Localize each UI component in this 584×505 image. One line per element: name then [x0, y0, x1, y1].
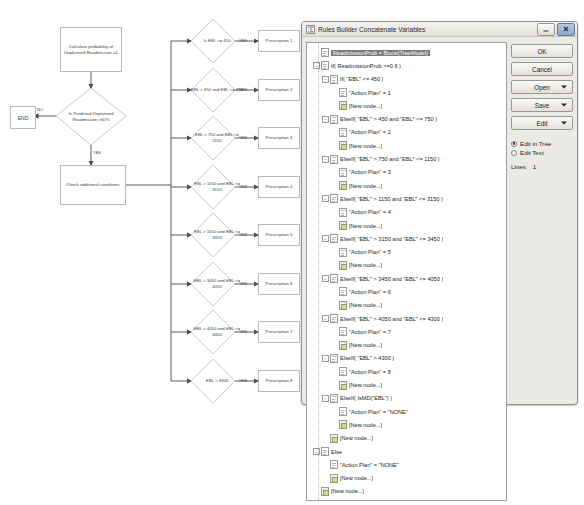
ok-button[interactable]: OK [511, 44, 573, 58]
new-node-icon [339, 261, 347, 270]
tree-node[interactable]: [New node...] [309, 259, 504, 272]
dialog-buttons-pane: OKCancelOpenSaveEdit Edit in TreeEdit Te… [511, 42, 573, 501]
prescription-box-5: Prescription 5 [258, 224, 300, 246]
edit-button[interactable]: Edit [511, 116, 573, 130]
tree-node[interactable]: ReadmissionProb = Boost(TreeModel) [309, 46, 504, 59]
tree-node-label: Else [331, 449, 342, 455]
tree-node[interactable]: [New node...] [309, 99, 504, 112]
tree-node[interactable]: "Action Plan" = "NONE" [309, 458, 504, 471]
expression-icon [339, 88, 347, 97]
tree-node[interactable]: -Else [309, 445, 504, 458]
rules-tree[interactable]: ReadmissionProb = Boost(TreeModel)-If( R… [306, 42, 507, 501]
collapse-icon[interactable]: - [322, 195, 329, 202]
tree-node[interactable]: [New node...] [309, 485, 504, 498]
radio-edit-in-tree[interactable]: Edit in Tree [511, 140, 573, 147]
tree-node[interactable]: "Action Plan" = 3 [309, 166, 504, 179]
tree-node[interactable]: -If( "EBL" <= 450 ) [309, 73, 504, 86]
tree-node[interactable]: -ElseIf( "EBL" > 4050 and "EBL" <= 4300 … [309, 312, 504, 325]
prescription-label-7: Prescription 7 [266, 329, 293, 335]
tree-node[interactable]: [New node...] [309, 179, 504, 192]
tree-node-label: ElseIf( IsMD("EBL") ) [340, 395, 392, 401]
chevron-down-icon[interactable] [561, 122, 567, 125]
edit-button-label: Edit [536, 120, 547, 127]
prescription-label-1: Prescription 1 [266, 38, 293, 44]
new-node-icon [339, 141, 347, 150]
collapse-icon[interactable]: - [322, 315, 329, 322]
collapse-icon[interactable]: - [322, 395, 329, 402]
dialog-titlebar[interactable]: Rules Builder Concatenate Variables [302, 22, 577, 37]
tree-node[interactable]: [New node...] [309, 219, 504, 232]
tree-node[interactable]: "Action Plan" = "NONE" [309, 405, 504, 418]
expression-icon [339, 128, 347, 137]
tree-node[interactable]: [New node...] [309, 299, 504, 312]
tree-spacer [322, 475, 329, 482]
collapse-icon[interactable]: - [322, 76, 329, 83]
cancel-button[interactable]: Cancel [511, 62, 573, 76]
tree-spacer [331, 368, 338, 375]
tree-node[interactable]: "Action Plan" = 4 [309, 206, 504, 219]
collapse-icon[interactable]: - [322, 156, 329, 163]
tree-node-label: "Action Plan" = 2 [349, 129, 391, 135]
tree-node[interactable]: -ElseIf( "EBL" > 450 and "EBL" <= 750 ) [309, 112, 504, 125]
tree-spacer [331, 421, 338, 428]
radio-button-icon[interactable] [511, 141, 517, 147]
radio-label: Edit Text [520, 149, 544, 156]
collapse-icon[interactable]: - [322, 355, 329, 362]
radio-edit-text[interactable]: Edit Text [511, 149, 573, 156]
branch-yes-8: YES [239, 378, 247, 383]
open-button[interactable]: Open [511, 80, 573, 94]
tree-node[interactable]: [New node...] [309, 472, 504, 485]
edit-mode-radio-group: Edit in TreeEdit Text [511, 138, 573, 156]
chevron-down-icon[interactable] [561, 104, 567, 107]
tree-node[interactable]: "Action Plan" = 2 [309, 126, 504, 139]
tree-node[interactable]: [New node...] [309, 418, 504, 431]
minimize-icon[interactable] [537, 23, 555, 36]
tree-node[interactable]: -ElseIf( "EBL" > 4300 ) [309, 352, 504, 365]
tree-spacer [331, 382, 338, 389]
chevron-down-icon[interactable] [561, 86, 567, 89]
radio-button-icon[interactable] [511, 150, 517, 156]
tree-node[interactable]: [New node...] [309, 339, 504, 352]
tree-node-label: "Action Plan" = 4 [349, 209, 391, 215]
tree-node[interactable]: -ElseIf( IsMD("EBL") ) [309, 392, 504, 405]
lines-row: Lines 1 [511, 163, 573, 170]
tree-node[interactable]: -ElseIf( "EBL" > 3450 and "EBL" <= 4050 … [309, 272, 504, 285]
end-box: END [10, 106, 36, 129]
tree-node[interactable]: "Action Plan" = 6 [309, 285, 504, 298]
tree-node[interactable]: "Action Plan" = 7 [309, 325, 504, 338]
expression-icon [339, 367, 347, 376]
dialog-title: Rules Builder Concatenate Variables [318, 26, 537, 33]
tree-node-label: [New node...] [349, 143, 382, 149]
collapse-icon[interactable]: - [322, 275, 329, 282]
tree-rows: ReadmissionProb = Boost(TreeModel)-If( R… [309, 46, 504, 498]
tree-node[interactable]: -ElseIf( "EBL" > 750 and "EBL" <= 1150 ) [309, 152, 504, 165]
check-conditions-box: Check additional conditions [60, 165, 126, 205]
new-node-icon [339, 420, 347, 429]
branch-yes-6: YES [239, 281, 247, 286]
tree-node[interactable]: -ElseIf( "EBL" > 3150 and "EBL" <= 3450 … [309, 232, 504, 245]
collapse-icon[interactable]: - [322, 116, 329, 123]
tree-node[interactable]: [New node...] [309, 378, 504, 391]
dialog-button-list: OKCancelOpenSaveEdit [511, 44, 573, 134]
lines-value: 1 [533, 163, 536, 170]
yes-edge-label: YES [93, 150, 101, 155]
save-button[interactable]: Save [511, 98, 573, 112]
tree-node-label: "Action Plan" = 3 [349, 169, 391, 175]
prescription-box-2: Prescription 2 [258, 79, 300, 101]
rule-icon [330, 394, 338, 403]
tree-node[interactable]: -ElseIf( "EBL" > 1150 and "EBL" <= 3150 … [309, 192, 504, 205]
tree-node[interactable]: "Action Plan" = 1 [309, 86, 504, 99]
tree-node[interactable]: -If( ReadmissionProb >=0.6 ) [309, 59, 504, 72]
tree-node[interactable]: [New node...] [309, 432, 504, 445]
tree-node-label: [New node...] [349, 223, 382, 229]
tree-node[interactable]: "Action Plan" = 8 [309, 365, 504, 378]
expression-icon [330, 460, 338, 469]
tree-node[interactable]: "Action Plan" = 5 [309, 245, 504, 258]
close-icon[interactable] [557, 23, 575, 36]
tree-node[interactable]: [New node...] [309, 139, 504, 152]
branch-yes-4: YES [239, 184, 247, 189]
rule-icon [321, 61, 329, 70]
collapse-icon[interactable]: - [322, 235, 329, 242]
rule-icon [330, 155, 338, 164]
